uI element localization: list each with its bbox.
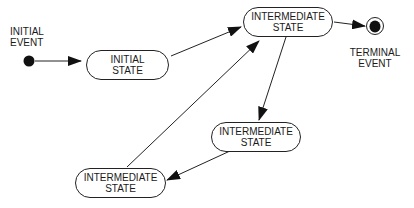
initial-event-dot [24, 56, 35, 67]
transition-arrow [334, 22, 365, 26]
diagram-canvas [0, 0, 414, 208]
transition-arrow [167, 151, 230, 180]
terminal-event-dot [370, 21, 381, 33]
intermediate-state-top[interactable]: INTERMEDIATE STATE [243, 7, 333, 37]
initial-state[interactable]: INITIAL STATE [86, 50, 169, 80]
intermediate-state-mid[interactable]: INTERMEDIATE STATE [211, 122, 301, 152]
intermediate-state-bottom[interactable]: INTERMEDIATE STATE [75, 168, 166, 198]
terminal-event-label: TERMINAL EVENT [347, 47, 403, 69]
transition-arrow [171, 27, 241, 56]
transition-arrow [259, 37, 286, 120]
initial-event-label: INITIAL EVENT [10, 26, 44, 48]
